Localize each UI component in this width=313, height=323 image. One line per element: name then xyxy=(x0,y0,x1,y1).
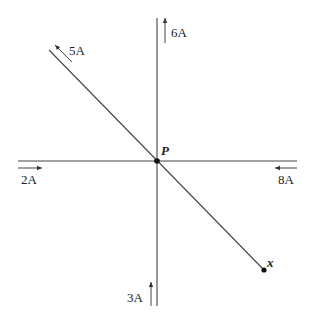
current-label-3a: 3A xyxy=(127,290,144,305)
point-p-label: P xyxy=(161,143,170,158)
current-label-2a: 2A xyxy=(21,172,38,187)
point-p-dot xyxy=(154,158,160,164)
current-label-5a: 5A xyxy=(69,43,86,58)
point-x-dot xyxy=(261,267,266,272)
current-label-6a: 6A xyxy=(171,25,188,40)
current-label-8a: 8A xyxy=(278,172,295,187)
point-x-label: x xyxy=(266,255,274,270)
circuit-diagram: 5A 6A 2A 8A 3A P x xyxy=(0,0,313,323)
